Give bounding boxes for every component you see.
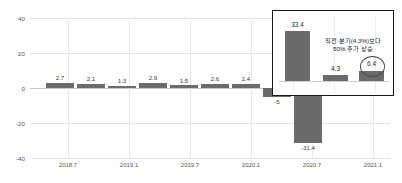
bar-5 [170,85,198,88]
inset-bar-2 [323,75,348,82]
xtick-label-2019-1: 2019.1 [120,162,138,168]
bar-9 [294,88,322,143]
inset-chart: 33.4 4.3 6.4 직전 분기(4.3%)보다 50% 추가 상승 [272,10,394,96]
bar-2 [77,84,105,88]
inset-bar-1 [285,31,310,81]
ytick-label-0: 0 [22,85,25,92]
gridline-v-2019-7 [190,18,191,158]
xtick-label-2020-1: 2020.1 [242,162,260,168]
bar-label-4: 2.9 [149,74,158,81]
xtick-label-2020-7: 2020.7 [303,162,321,168]
bar-3 [108,86,136,88]
gridline-v-2018-7 [68,18,69,158]
bar-label-9: -31.4 [301,144,315,151]
bar-6 [201,84,229,89]
inset-annotation-text: 직전 분기(4.3%)보다 50% 추가 상승 [315,37,391,54]
ytick-label-20: 20 [18,50,25,57]
xtick-label-2021-1: 2021.1 [364,162,382,168]
bar-label-7: 2.4 [242,75,251,82]
xtick-label-2019-7: 2019.7 [181,162,199,168]
bar-label-6: 2.6 [211,75,220,82]
ytick-label-40: 40 [18,15,25,22]
inset-bar-label-1: 33.4 [291,21,303,28]
gridline-neg40 [30,158,390,159]
bar-label-2: 2.1 [87,75,96,82]
bar-label-8: -5 [274,98,280,105]
bar-chart-figure: 40 20 0 -20 -40 2.7 2.1 1.3 2.9 1.5 [0,0,402,183]
bar-4 [139,83,167,88]
inset-plot-area: 33.4 4.3 6.4 [279,15,389,93]
bar-label-1: 2.7 [56,74,65,81]
bar-label-3: 1.3 [118,77,127,84]
gridline-v-2020-1 [251,18,252,158]
inset-bar-label-2: 4.3 [331,65,340,72]
ytick-label-neg20: -20 [16,120,25,127]
xtick-label-2018-7: 2018.7 [59,162,77,168]
bar-1 [46,83,74,88]
bar-7 [232,84,260,88]
highlight-ellipse-icon [360,56,385,77]
bar-label-5: 1.5 [180,77,189,84]
ytick-label-neg40: -40 [16,155,25,162]
gridline-v-2019-1 [129,18,130,158]
gridline-neg20 [30,123,390,124]
inset-baseline [279,81,389,82]
